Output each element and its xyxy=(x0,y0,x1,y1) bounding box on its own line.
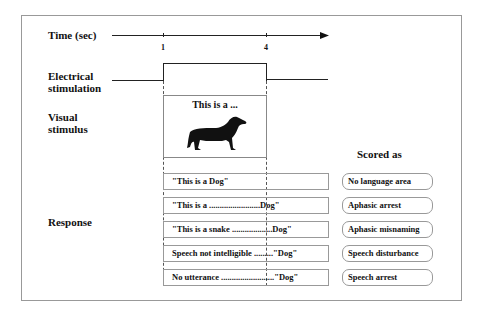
arrowhead-icon xyxy=(320,31,329,40)
visual-stimulus-box: This is a ... xyxy=(163,95,267,158)
stim-baseline-left xyxy=(112,80,163,81)
visual-label-line1: Visual xyxy=(48,111,78,123)
electrical-label-line1: Electrical xyxy=(48,70,93,82)
tick-label-1: 1 xyxy=(161,43,165,52)
tick-label-4: 4 xyxy=(264,43,268,52)
stim-high xyxy=(163,63,267,64)
dog-icon xyxy=(184,114,250,156)
stimulus-caption: This is a ... xyxy=(164,99,266,110)
response-row-3: "This is a snake ...................Dog" xyxy=(163,221,329,238)
response-row-2: "This is a ........................Dog" xyxy=(163,197,329,214)
tick-1 xyxy=(163,33,164,37)
stim-rise xyxy=(163,63,164,81)
stim-baseline-right xyxy=(266,79,328,80)
time-axis-line xyxy=(112,35,322,36)
response-row-1: "This is a Dog" xyxy=(163,173,329,190)
score-box-1: No language area xyxy=(342,173,433,190)
visual-label-line2: stimulus xyxy=(48,123,88,135)
scored-as-header: Scored as xyxy=(357,148,402,160)
tick-4 xyxy=(266,33,267,37)
response-row-5: No utterance ........................."D… xyxy=(163,269,329,286)
time-axis-label: Time (sec) xyxy=(48,29,96,41)
score-box-5: Speech arrest xyxy=(342,269,433,286)
response-row-4: Speech not intelligible ........."Dog" xyxy=(163,245,329,262)
score-box-3: Aphasic misnaming xyxy=(342,221,433,238)
score-box-2: Aphasic arrest xyxy=(342,197,433,214)
electrical-label-line2: stimulation xyxy=(48,82,101,94)
response-label: Response xyxy=(48,216,92,228)
score-box-4: Speech disturbance xyxy=(342,245,433,262)
